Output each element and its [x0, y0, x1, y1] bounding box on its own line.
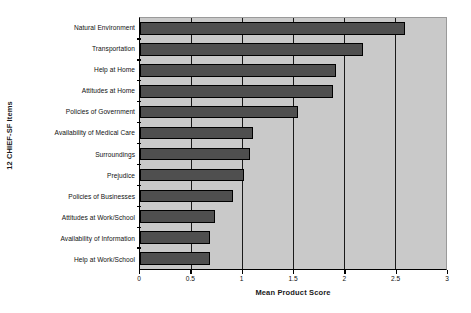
y-axis-tick: [137, 59, 141, 60]
x-axis-tick-label: 0.5: [186, 275, 195, 282]
x-axis-title: Mean Product Score: [139, 288, 447, 297]
category-label: Availability of Information: [18, 228, 139, 249]
bar-row: [140, 102, 446, 123]
category-label: Surroundings: [18, 143, 139, 164]
category-label: Help at Work/School: [18, 249, 139, 270]
category-label: Help at Home: [18, 59, 139, 80]
bar-row: [140, 206, 446, 227]
category-label: Policies of Businesses: [18, 186, 139, 207]
bar: [140, 252, 210, 265]
bar: [140, 169, 244, 182]
x-axis-tick-label: 1.5: [288, 275, 297, 282]
y-axis-tick: [137, 185, 141, 186]
bar: [140, 231, 210, 244]
bar-row: [140, 39, 446, 60]
x-axis-tick: [396, 270, 397, 274]
y-axis-tick: [137, 247, 141, 248]
bar-row: [140, 123, 446, 144]
bar: [140, 43, 363, 56]
y-axis-tick: [137, 80, 141, 81]
y-axis-tick: [137, 206, 141, 207]
bar-row: [140, 185, 446, 206]
bar: [140, 22, 405, 35]
x-axis-tick-label: 2.5: [391, 275, 400, 282]
plot-area: [139, 17, 447, 270]
bar: [140, 190, 233, 203]
category-label: Attitudes at Home: [18, 80, 139, 101]
bar: [140, 85, 333, 98]
category-label: Transportation: [18, 38, 139, 59]
y-axis-tick: [137, 143, 141, 144]
y-axis-title-text: 12 CHIEF-SF Items: [5, 101, 14, 169]
y-axis-tick: [137, 38, 141, 39]
x-axis-tick: [242, 270, 243, 274]
category-label: Attitudes at Work/School: [18, 207, 139, 228]
category-label: Prejudice: [18, 165, 139, 186]
bar-row: [140, 248, 446, 269]
bar-row: [140, 144, 446, 165]
y-axis-tick: [137, 164, 141, 165]
x-axis-tick: [139, 270, 140, 274]
x-axis-tick-label: 0: [137, 275, 141, 282]
category-label: Natural Environment: [18, 17, 139, 38]
x-axis-tick: [190, 270, 191, 274]
y-axis-tick: [137, 227, 141, 228]
bar: [140, 148, 250, 161]
bars-layer: [140, 18, 446, 269]
x-axis-tick: [293, 270, 294, 274]
bar-row: [140, 227, 446, 248]
bar-chart-figure: 12 CHIEF-SF Items Natural EnvironmentTra…: [0, 0, 471, 313]
bar-row: [140, 60, 446, 81]
x-axis-tick-label: 3: [445, 275, 449, 282]
bar: [140, 127, 253, 140]
category-label-list: Natural EnvironmentTransportationHelp at…: [18, 17, 139, 270]
x-axis-tick: [344, 270, 345, 274]
bar: [140, 210, 215, 223]
bar-row: [140, 164, 446, 185]
category-label: Policies of Government: [18, 101, 139, 122]
bar-row: [140, 18, 446, 39]
x-axis-tick-label: 1: [240, 275, 244, 282]
x-axis-tick-label: 2: [342, 275, 346, 282]
y-axis-tick: [137, 122, 141, 123]
x-axis-tick: [447, 270, 448, 274]
bar: [140, 106, 298, 119]
category-label: Availability of Medical Care: [18, 122, 139, 143]
bar: [140, 64, 336, 77]
bar-row: [140, 81, 446, 102]
y-axis-tick: [137, 101, 141, 102]
y-axis-title: 12 CHIEF-SF Items: [0, 0, 18, 270]
x-axis: 00.511.522.53: [139, 270, 447, 290]
